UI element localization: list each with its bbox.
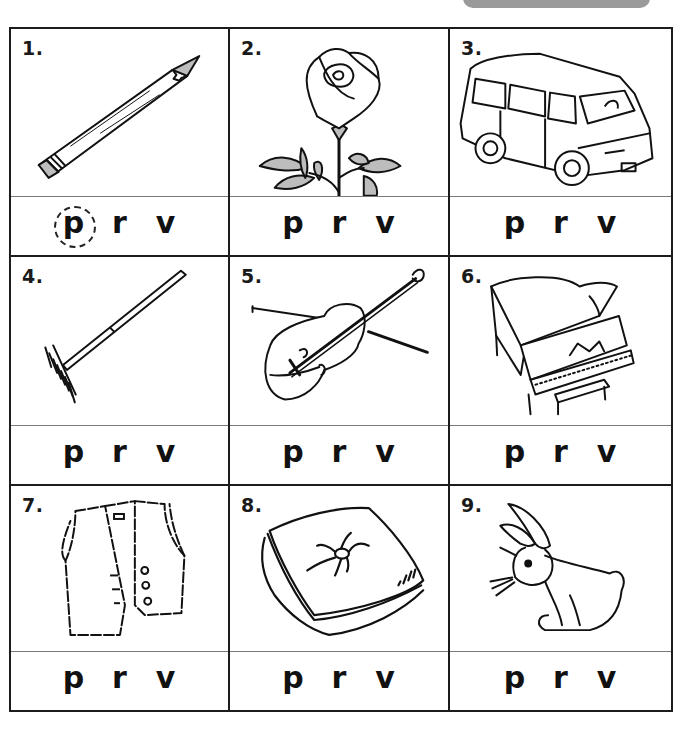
picture-area-5: 5.	[230, 257, 448, 426]
choice-letter-p[interactable]: p	[270, 208, 316, 244]
letter-choices-3: p r v	[450, 197, 671, 255]
choice-letter-v[interactable]: v	[143, 208, 189, 244]
choice-letter-v[interactable]: v	[584, 437, 630, 473]
choice-letter-p[interactable]: p	[51, 208, 97, 244]
letter-choices-1: p r v	[11, 197, 228, 255]
item-cell-7: 7.	[11, 486, 230, 710]
van-icon	[450, 29, 671, 196]
choice-letter-r[interactable]: r	[316, 663, 362, 699]
choice-letter-r[interactable]: r	[97, 437, 143, 473]
item-cell-2: 2.	[230, 29, 450, 257]
choice-letter-p[interactable]: p	[492, 208, 538, 244]
picture-area-1: 1.	[11, 29, 228, 197]
picture-area-8: 8.	[230, 486, 448, 652]
rose-icon	[230, 29, 448, 196]
choice-letter-v[interactable]: v	[143, 437, 189, 473]
item-cell-6: 6. p r v	[450, 257, 671, 486]
choice-letter-p[interactable]: p	[492, 663, 538, 699]
rabbit-icon	[450, 486, 671, 651]
letter-choices-7: p r v	[11, 652, 228, 710]
choice-letter-v[interactable]: v	[584, 208, 630, 244]
choice-letter-v[interactable]: v	[362, 437, 408, 473]
pillow-icon	[230, 486, 448, 651]
item-cell-8: 8.	[230, 486, 450, 710]
item-cell-9: 9. p r v	[450, 486, 671, 710]
letter-choices-8: p r v	[230, 652, 448, 710]
choice-letter-v[interactable]: v	[143, 663, 189, 699]
picture-area-9: 9.	[450, 486, 671, 652]
picture-area-3: 3.	[450, 29, 671, 197]
item-cell-5: 5. p r v	[230, 257, 450, 486]
letter-choices-4: p r v	[11, 426, 228, 484]
picture-area-4: 4.	[11, 257, 228, 426]
item-cell-1: 1. p r v	[11, 29, 230, 257]
choice-letter-r[interactable]: r	[316, 437, 362, 473]
choice-letter-p[interactable]: p	[270, 663, 316, 699]
rake-icon	[11, 257, 228, 425]
letter-choices-2: p r v	[230, 197, 448, 255]
choice-letter-p[interactable]: p	[270, 437, 316, 473]
worksheet-grid: 1. p r v 2.	[9, 27, 673, 712]
choice-letter-r[interactable]: r	[97, 208, 143, 244]
violin-icon	[230, 257, 448, 425]
item-cell-4: 4. p r v	[11, 257, 230, 486]
choice-letter-r[interactable]: r	[538, 663, 584, 699]
choice-letter-p[interactable]: p	[492, 437, 538, 473]
picture-area-2: 2.	[230, 29, 448, 197]
letter-choices-5: p r v	[230, 426, 448, 484]
item-cell-3: 3.	[450, 29, 671, 257]
header-tab	[463, 0, 650, 8]
pencil-icon	[11, 29, 228, 196]
picture-area-6: 6.	[450, 257, 671, 426]
vest-icon	[11, 486, 228, 651]
picture-area-7: 7.	[11, 486, 228, 652]
choice-letter-r[interactable]: r	[538, 437, 584, 473]
choice-letter-r[interactable]: r	[538, 208, 584, 244]
choice-letter-r[interactable]: r	[316, 208, 362, 244]
choice-letter-v[interactable]: v	[362, 208, 408, 244]
letter-choices-9: p r v	[450, 652, 671, 710]
choice-letter-r[interactable]: r	[97, 663, 143, 699]
choice-letter-p[interactable]: p	[51, 437, 97, 473]
choice-letter-p[interactable]: p	[51, 663, 97, 699]
piano-icon	[450, 257, 671, 425]
choice-letter-v[interactable]: v	[362, 663, 408, 699]
choice-letter-v[interactable]: v	[584, 663, 630, 699]
letter-choices-6: p r v	[450, 426, 671, 484]
